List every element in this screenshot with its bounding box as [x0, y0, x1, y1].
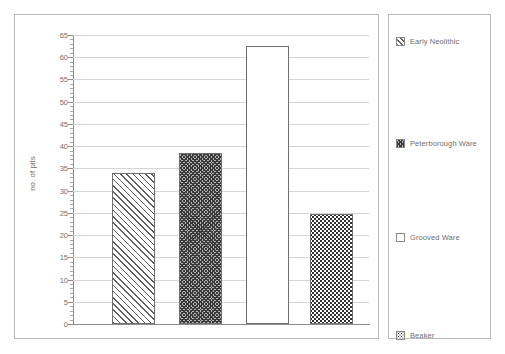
y-tick-label: 20 — [42, 231, 68, 240]
legend-swatch-icon — [396, 139, 405, 148]
gridline — [73, 124, 369, 125]
gridline — [73, 35, 369, 36]
y-tick-label: 40 — [42, 142, 68, 151]
y-tick-label: 35 — [42, 164, 68, 173]
bar-peterborough-ware — [179, 153, 222, 324]
legend-panel: Early NeolithicPeterborough WareGrooved … — [388, 14, 491, 339]
y-tick-label: 0 — [42, 320, 68, 329]
bar-early-neolithic — [112, 173, 155, 324]
gridline — [73, 146, 369, 147]
chart-figure: no. of pits 05101520253035404550556065 E… — [0, 0, 505, 354]
y-tick-label: 55 — [42, 75, 68, 84]
y-tick-label: 60 — [42, 53, 68, 62]
legend-item-label: Early Neolithic — [410, 37, 459, 46]
y-tick-label: 10 — [42, 275, 68, 284]
legend-item-grooved-ware: Grooved Ware — [396, 233, 460, 242]
legend-swatch-icon — [396, 233, 405, 242]
y-axis-label: no. of pits — [28, 143, 37, 205]
x-axis-line — [73, 324, 370, 325]
plot-panel: no. of pits 05101520253035404550556065 — [14, 14, 379, 339]
gridline — [73, 102, 369, 103]
legend-swatch-icon — [396, 37, 405, 46]
y-tick-label: 45 — [42, 119, 68, 128]
y-axis-label-container: no. of pits — [25, 145, 39, 225]
legend-item-early-neolithic: Early Neolithic — [396, 37, 459, 46]
gridline — [73, 57, 369, 58]
y-tick-label: 30 — [42, 186, 68, 195]
plot-area — [73, 35, 369, 324]
legend-item-peterborough-ware: Peterborough Ware — [396, 139, 477, 148]
legend-item-label: Grooved Ware — [410, 233, 460, 242]
y-tick-label: 5 — [42, 297, 68, 306]
y-tick-label: 15 — [42, 253, 68, 262]
y-tick-label: 65 — [42, 31, 68, 40]
legend-item-beaker: Beaker — [396, 331, 434, 340]
y-tick-label: 25 — [42, 208, 68, 217]
gridline — [73, 79, 369, 80]
y-tick-label: 50 — [42, 97, 68, 106]
y-tick-major — [68, 324, 73, 325]
legend-swatch-icon — [396, 331, 405, 340]
bar-grooved-ware — [246, 46, 289, 324]
legend-item-label: Peterborough Ware — [410, 139, 477, 148]
legend-item-label: Beaker — [410, 331, 434, 340]
bar-beaker — [310, 214, 353, 324]
